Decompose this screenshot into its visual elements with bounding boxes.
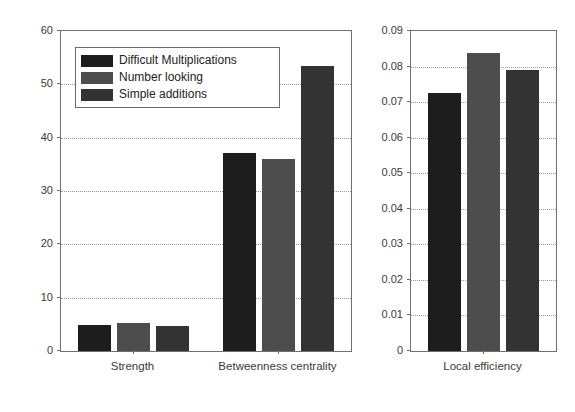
legend: Difficult Multiplications Number looking… bbox=[75, 47, 280, 108]
y-tick-label: 0.04 bbox=[382, 203, 403, 213]
y-tick-label: 10 bbox=[41, 292, 53, 302]
bar bbox=[78, 325, 111, 351]
bar bbox=[467, 53, 500, 351]
y-tick-label: 20 bbox=[41, 238, 53, 248]
y-tick-label: 40 bbox=[41, 132, 53, 142]
bar bbox=[301, 66, 334, 351]
left-panel-plot-area: Difficult Multiplications Number looking… bbox=[60, 30, 352, 352]
legend-item: Number looking bbox=[81, 69, 273, 86]
x-tick-mark bbox=[278, 350, 279, 354]
bar bbox=[223, 153, 256, 351]
x-tick-label: Strength bbox=[111, 360, 154, 372]
x-tick-mark bbox=[133, 350, 134, 354]
y-tick-label: 0.09 bbox=[382, 25, 403, 35]
left-panel: 0102030405060 Difficult Multiplications … bbox=[0, 0, 360, 412]
y-tick-label: 0 bbox=[47, 345, 53, 355]
y-tick-label: 0.08 bbox=[382, 61, 403, 71]
bar bbox=[156, 326, 189, 351]
x-tick-label: Betweenness centrality bbox=[218, 360, 336, 372]
y-tick-label: 30 bbox=[41, 185, 53, 195]
y-tick-label: 0.03 bbox=[382, 238, 403, 248]
bar bbox=[506, 70, 539, 351]
right-panel-plot-area bbox=[410, 30, 557, 352]
x-tick-mark bbox=[483, 350, 484, 354]
y-tick-label: 0 bbox=[397, 345, 403, 355]
bar bbox=[117, 323, 150, 351]
y-tick-label: 0.02 bbox=[382, 274, 403, 284]
legend-item: Simple additions bbox=[81, 86, 273, 103]
legend-swatch-difficult-multiplications bbox=[81, 55, 113, 67]
bar bbox=[262, 159, 295, 351]
y-tick-label: 0.05 bbox=[382, 167, 403, 177]
y-tick-label: 0.06 bbox=[382, 132, 403, 142]
legend-item: Difficult Multiplications bbox=[81, 52, 273, 69]
legend-label-simple-additions: Simple additions bbox=[119, 88, 207, 101]
y-tick-label: 50 bbox=[41, 78, 53, 88]
figure-canvas: 0102030405060 Difficult Multiplications … bbox=[0, 0, 575, 412]
right-panel: 00.010.020.030.040.050.060.070.080.09 Lo… bbox=[360, 0, 575, 412]
y-tick-label: 0.01 bbox=[382, 309, 403, 319]
x-tick-label: Local efficiency bbox=[443, 360, 521, 372]
bar bbox=[428, 93, 461, 351]
legend-swatch-simple-additions bbox=[81, 89, 113, 101]
legend-swatch-number-looking bbox=[81, 72, 113, 84]
legend-label-difficult-multiplications: Difficult Multiplications bbox=[119, 54, 237, 67]
y-tick-label: 60 bbox=[41, 25, 53, 35]
legend-label-number-looking: Number looking bbox=[119, 71, 203, 84]
y-tick-label: 0.07 bbox=[382, 96, 403, 106]
